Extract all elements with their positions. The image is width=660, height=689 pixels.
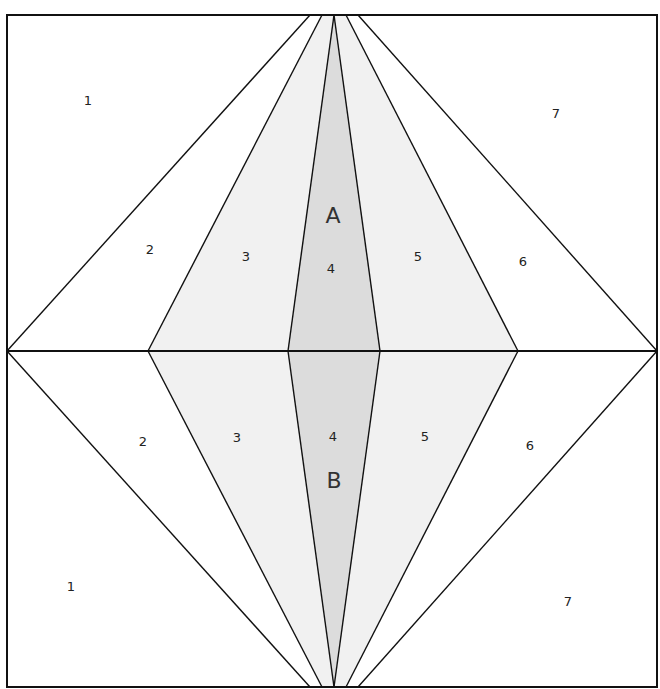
- label-b6: 6: [526, 438, 534, 453]
- section-b: [148, 351, 518, 687]
- pattern-diagram: 1 2 3 4 5 6 7 A 1 2 3 4 5 6 7 B: [0, 0, 660, 689]
- label-b2: 2: [139, 434, 147, 449]
- label-a3: 3: [242, 249, 250, 264]
- label-b1: 1: [67, 579, 75, 594]
- label-b3: 3: [233, 430, 241, 445]
- label-a7: 7: [552, 106, 560, 121]
- label-a4: 4: [327, 261, 335, 276]
- label-b4: 4: [329, 429, 337, 444]
- label-a5: 5: [414, 249, 422, 264]
- label-a2: 2: [146, 242, 154, 257]
- label-b5: 5: [421, 429, 429, 444]
- label-a1: 1: [84, 93, 92, 108]
- section-label-a: A: [325, 203, 340, 228]
- label-a6: 6: [519, 254, 527, 269]
- section-label-b: B: [326, 468, 341, 493]
- label-b7: 7: [564, 594, 572, 609]
- section-a: [148, 15, 518, 351]
